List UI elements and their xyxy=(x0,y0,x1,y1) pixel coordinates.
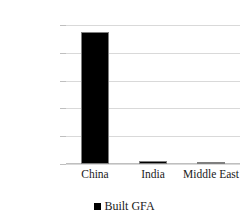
bar-slot xyxy=(124,25,182,164)
gridline xyxy=(66,164,240,165)
bar-chart: 050000100000150000200000250000 ChinaIndi… xyxy=(0,0,249,222)
legend-square-marker-icon xyxy=(94,203,101,210)
legend-label: Built GFA xyxy=(104,200,154,212)
bar[interactable] xyxy=(197,162,225,164)
y-tick-mark xyxy=(60,164,66,165)
x-tick-label: India xyxy=(124,168,182,180)
bar-slot xyxy=(66,25,124,164)
bars-layer xyxy=(66,25,240,164)
bar[interactable] xyxy=(139,161,167,164)
plot-area: 050000100000150000200000250000 xyxy=(66,25,240,164)
bar-slot xyxy=(182,25,240,164)
bar[interactable] xyxy=(81,32,109,164)
x-tick-label: Middle East xyxy=(182,168,240,180)
x-tick-label: China xyxy=(66,168,124,180)
chart-legend: Built GFA xyxy=(0,200,249,212)
